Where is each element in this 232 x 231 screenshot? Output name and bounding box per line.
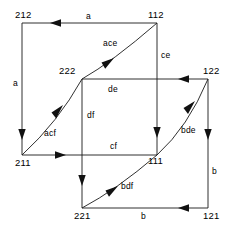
diagram-canvas [0, 0, 232, 231]
vertex-label-121: 121 [203, 211, 219, 221]
edge-label-ce: ce [161, 51, 170, 60]
arrowhead-221-to-111 [106, 186, 119, 197]
arrowhead-112-to-111 [153, 127, 160, 138]
arrowhead-122-to-222 [178, 75, 189, 82]
arrowhead-211-to-111 [55, 151, 66, 158]
edge-label-bdf: bdf [121, 182, 133, 191]
transition-diagram: 212 112 222 122 211 111 221 121 a a ace … [0, 0, 232, 231]
arrowhead-222-to-112 [102, 58, 115, 69]
vertex-label-122: 122 [203, 66, 219, 76]
arrowhead-212-to-211 [18, 129, 25, 140]
edge-222-to-112 [82, 23, 157, 79]
arrowhead-222-to-221 [78, 175, 85, 186]
edge-label-top-a: a [86, 12, 91, 21]
edge-label-left-a: a [13, 79, 18, 88]
vertex-label-111: 111 [148, 156, 163, 166]
edge-label-de: de [108, 85, 118, 94]
edge-label-bottom-b: b [141, 212, 146, 221]
vertex-label-112: 112 [148, 10, 164, 20]
arrowhead-121-to-221 [178, 204, 189, 211]
edge-label-acf: acf [44, 129, 56, 138]
arrowhead-112-to-212 [50, 19, 61, 26]
edge-label-cf: cf [110, 142, 117, 151]
edge-label-df: df [87, 111, 95, 120]
edge-111-to-122 [157, 79, 208, 155]
edge-label-bde: bde [181, 126, 196, 135]
edge-label-ace: ace [103, 39, 117, 48]
edge-221-to-111 [82, 155, 157, 208]
edge-211-to-222 [22, 79, 82, 155]
vertex-label-222: 222 [59, 66, 75, 76]
edge-label-right-b: b [212, 167, 217, 176]
arrowhead-122-to-121 [204, 129, 211, 140]
vertex-label-212: 212 [15, 10, 31, 20]
vertex-label-221: 221 [74, 211, 90, 221]
arrowhead-111-to-122 [184, 101, 196, 114]
vertex-label-211: 211 [15, 158, 31, 168]
